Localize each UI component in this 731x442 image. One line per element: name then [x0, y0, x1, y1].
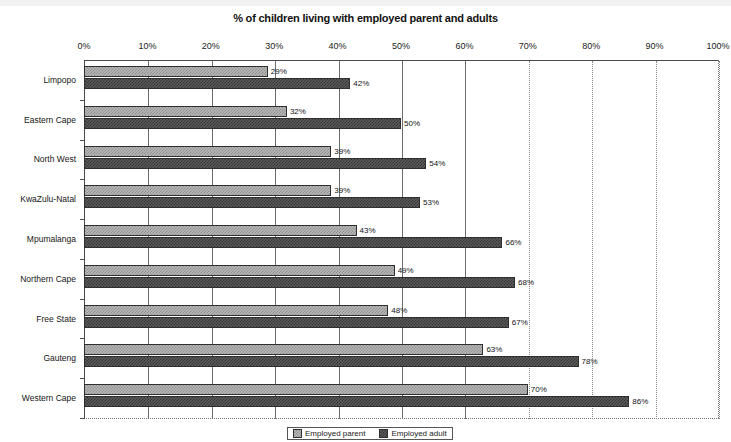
bar-employed-parent	[84, 305, 388, 316]
legend-swatch-employed-parent	[293, 429, 302, 438]
y-axis-tick	[80, 338, 85, 339]
bar-employed-parent	[84, 106, 287, 117]
legend-label-employed-adult: Employed adult	[391, 429, 446, 438]
bar-value-label: 48%	[391, 305, 407, 314]
x-tick-label: 90%	[646, 41, 664, 51]
bar-employed-adult	[84, 237, 502, 248]
bar-employed-adult	[84, 118, 401, 129]
bar-value-label: 49%	[398, 265, 414, 274]
bar-employed-parent	[84, 185, 331, 196]
x-tick-label: 40%	[329, 41, 347, 51]
bar-employed-parent	[84, 265, 395, 276]
bar-employed-adult	[84, 197, 420, 208]
x-tick-label: 30%	[265, 41, 283, 51]
y-axis-tick	[80, 299, 85, 300]
y-axis-category-label: Mpumalanga	[0, 234, 76, 244]
chart-title: % of children living with employed paren…	[0, 12, 731, 24]
legend-item-employed-adult: Employed adult	[379, 429, 446, 438]
x-tick-label: 10%	[138, 41, 156, 51]
x-tick-label: 50%	[392, 41, 410, 51]
plot-bottom-axis	[84, 418, 719, 419]
bar-value-label: 42%	[353, 79, 369, 88]
y-axis-tick	[80, 179, 85, 180]
scan-edge	[0, 0, 731, 6]
x-tick-label: 60%	[455, 41, 473, 51]
bar-employed-adult	[84, 158, 426, 169]
bar-employed-parent	[84, 225, 357, 236]
bar-value-label: 86%	[632, 397, 648, 406]
bar-value-label: 50%	[404, 118, 420, 127]
bar-value-label: 53%	[423, 198, 439, 207]
y-axis-category-label: KwaZulu-Natal	[0, 194, 76, 204]
bar-value-label: 66%	[505, 238, 521, 247]
bar-value-label: 39%	[334, 186, 350, 195]
plot-right-edge	[718, 60, 719, 418]
y-axis-category-label: North West	[0, 154, 76, 164]
x-tick-label: 100%	[706, 41, 729, 51]
gridline	[719, 61, 720, 419]
bar-employed-adult	[84, 317, 509, 328]
y-axis-category-label: Western Cape	[0, 393, 76, 403]
bar-employed-adult	[84, 78, 350, 89]
y-axis-category-label: Northern Cape	[0, 274, 76, 284]
bar-employed-adult	[84, 356, 579, 367]
y-axis-category-label: Gauteng	[0, 353, 76, 363]
bar-value-label: 67%	[512, 317, 528, 326]
bar-value-label: 68%	[518, 277, 534, 286]
bar-employed-adult	[84, 396, 629, 407]
bar-employed-parent	[84, 384, 528, 395]
bar-employed-parent	[84, 344, 483, 355]
bar-employed-adult	[84, 277, 515, 288]
x-tick-label: 70%	[519, 41, 537, 51]
bar-value-label: 43%	[360, 226, 376, 235]
y-axis-tick	[80, 259, 85, 260]
bar-value-label: 78%	[582, 357, 598, 366]
x-tick-label: 20%	[202, 41, 220, 51]
y-axis-category-label: Eastern Cape	[0, 115, 76, 125]
y-axis-category-label: Limpopo	[0, 75, 76, 85]
chart-legend: Employed parent Employed adult	[287, 427, 453, 440]
x-tick-label: 0%	[77, 41, 90, 51]
y-axis-tick	[80, 219, 85, 220]
bar-employed-parent	[84, 146, 331, 157]
bar-value-label: 54%	[429, 158, 445, 167]
y-axis-tick	[80, 418, 85, 419]
bar-value-label: 63%	[486, 345, 502, 354]
bar-employed-parent	[84, 66, 268, 77]
y-axis-tick	[80, 378, 85, 379]
gridline	[656, 61, 657, 419]
x-tick-label: 80%	[582, 41, 600, 51]
y-axis-tick	[80, 140, 85, 141]
bar-value-label: 29%	[271, 67, 287, 76]
bar-value-label: 32%	[290, 106, 306, 115]
bar-value-label: 70%	[531, 385, 547, 394]
legend-label-employed-parent: Employed parent	[305, 429, 365, 438]
legend-swatch-employed-adult	[379, 429, 388, 438]
bar-value-label: 39%	[334, 146, 350, 155]
y-axis-category-label: Free State	[0, 314, 76, 324]
y-axis-tick	[80, 100, 85, 101]
legend-item-employed-parent: Employed parent	[293, 429, 365, 438]
